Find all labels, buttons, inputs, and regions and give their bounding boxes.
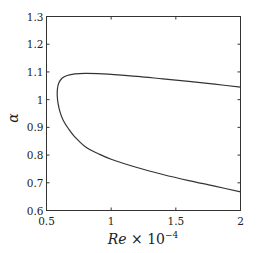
data-curve [57,73,240,192]
axis-ticks [47,17,241,211]
y-tick-label: 0.6 [27,205,44,217]
y-tick-label: 1.1 [27,66,44,78]
x-axis-label-main: Re [107,231,127,247]
y-tick-label: 0.9 [27,121,44,133]
x-axis-label: Re × 10−4 [107,230,179,247]
x-axis-label-exp: −4 [165,230,179,240]
y-tick-label: 0.8 [27,149,44,161]
y-tick-label: 1.2 [27,38,44,50]
x-tick-label: 1 [108,215,115,227]
chart: 0.511.520.60.70.80.911.11.21.3 Re × 10−4… [0,0,266,253]
x-tick-label: 1.5 [167,215,184,227]
plot-frame [47,17,241,211]
y-tick-label: 0.7 [27,177,44,189]
x-axis-label-times: × 10 [127,231,165,247]
y-tick-label: 1.3 [27,11,44,23]
y-axis-label: α [5,113,21,123]
y-tick-label: 1 [37,94,44,106]
x-tick-label: 2 [237,215,244,227]
tick-labels: 0.511.520.60.70.80.911.11.21.3 [27,11,244,227]
